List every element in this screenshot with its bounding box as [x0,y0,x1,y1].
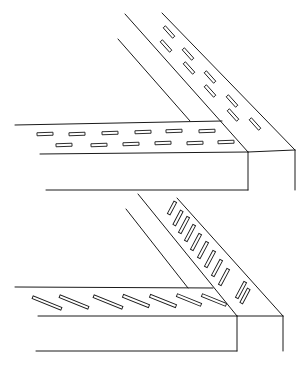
slot [199,129,215,133]
top-joint-figure [15,13,295,190]
slot [178,216,189,233]
slot [182,48,194,60]
edge-line [15,287,213,288]
slot [201,294,226,307]
slot [149,294,176,307]
slot [93,295,123,309]
slot [227,109,239,121]
slot [204,85,216,97]
slot [122,294,149,307]
slot [32,296,62,310]
slot [190,233,201,250]
slot [218,140,234,144]
slot [211,259,222,276]
diagram-canvas [0,0,308,365]
slot [91,143,107,147]
slot [160,40,172,52]
slot [183,62,195,74]
slot [37,132,53,136]
slot [173,210,183,226]
edge-line [15,121,222,125]
slot [167,201,176,215]
edge-line [248,150,295,152]
slot [69,132,85,136]
slot [135,130,151,134]
slot [155,141,171,145]
slot [56,143,72,147]
slot [226,95,238,107]
edge-line [126,209,188,288]
slot [102,131,118,135]
slot [249,118,261,130]
slot [197,241,208,258]
slot [59,295,89,309]
slot [163,26,175,38]
slot [176,294,201,307]
bottom-joint-figure [15,194,283,351]
mitered-joint-drawing [0,0,308,365]
slot [123,142,139,146]
edge-line [40,152,248,154]
slot [187,141,203,145]
slot [204,250,215,267]
edge-line [118,39,190,121]
slot [218,268,229,285]
slot [166,129,182,133]
slot [184,224,195,241]
edge-line [177,198,283,316]
slot [204,71,216,83]
